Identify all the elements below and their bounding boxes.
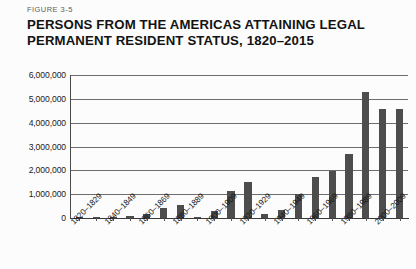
- y-axis-tick-label: 0: [4, 213, 66, 223]
- figure-container: FIGURE 3-5 PERSONS FROM THE AMERICAS ATT…: [0, 0, 416, 269]
- y-axis-tick-label: 5,000,000: [4, 94, 66, 104]
- chart-plot-area: [71, 75, 408, 218]
- bar: [160, 208, 167, 218]
- gridline: [71, 99, 408, 100]
- y-axis-labels: 6,000,0005,000,0004,000,0003,000,0002,00…: [0, 75, 66, 218]
- gridline: [71, 75, 408, 76]
- figure-title-line-1: PERSONS FROM THE AMERICAS ATTAINING LEGA…: [27, 17, 365, 32]
- y-axis-tick-label: 6,000,000: [4, 70, 66, 80]
- figure-number: FIGURE 3-5: [27, 5, 73, 14]
- y-axis-tick-label: 3,000,000: [4, 142, 66, 152]
- gridline: [71, 123, 408, 124]
- gridline: [71, 194, 408, 195]
- x-axis-labels: 1820–18291840–18491860–18691880–18891900…: [71, 220, 416, 269]
- y-axis-tick-label: 1,000,000: [4, 189, 66, 199]
- bar: [379, 109, 386, 218]
- figure-title-line-2: PERMANENT RESIDENT STATUS, 1820–2015: [27, 33, 407, 49]
- y-axis-tick-label: 4,000,000: [4, 118, 66, 128]
- gridline: [71, 170, 408, 171]
- y-axis-tick-label: 2,000,000: [4, 165, 66, 175]
- gridline: [71, 147, 408, 148]
- figure-title: PERSONS FROM THE AMERICAS ATTAINING LEGA…: [27, 17, 407, 50]
